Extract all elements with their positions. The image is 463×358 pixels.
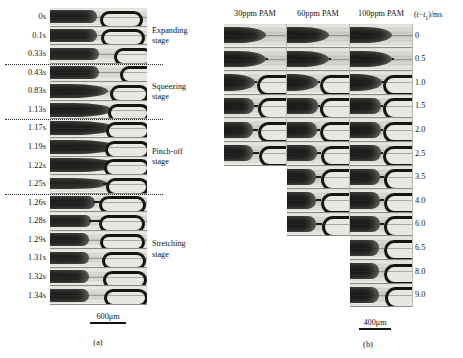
panel-b-frame (224, 142, 286, 166)
panel-b-droplet (321, 193, 349, 213)
panel-b-axis-label: (t−t1)/ms (414, 10, 442, 21)
panel-b-continuous-phase (287, 98, 318, 114)
panel-b-droplet (384, 264, 412, 284)
panel-a-stage-divider (5, 194, 163, 195)
panel-b-frame (287, 24, 349, 48)
panel-b-time-label: 9.0 (415, 291, 449, 299)
panel-a-droplet (103, 271, 147, 287)
panel-b-filament (380, 176, 383, 178)
panel-b-filament (266, 58, 268, 60)
panel-b-time-label: 1.0 (415, 79, 449, 87)
panel-b-time-label: 6.5 (415, 244, 449, 252)
panel-b-continuous-phase (350, 216, 380, 232)
panel-a-time-label: 1.17s (0, 124, 46, 132)
panel-a-frame (50, 45, 147, 64)
panel-b-filament (381, 152, 384, 154)
panel-a-continuous-phase (50, 121, 114, 135)
panel-b-frame (287, 95, 349, 119)
panel-b-time-label: 2.5 (415, 150, 449, 158)
panel-b-droplet (259, 146, 286, 166)
panel-b-droplet (320, 98, 349, 118)
panel-a-stage-label: Squeezingstage (152, 82, 218, 103)
panel-a-caption: (a) (72, 338, 124, 347)
panel-a-time-label: 1.13s (0, 106, 46, 114)
panel-b-droplet (384, 216, 412, 236)
panel-b-frame (350, 189, 412, 213)
panel-b-droplet (383, 122, 412, 142)
panel-b-filament (253, 129, 258, 131)
panel-b-frame (224, 48, 286, 72)
panel-b-droplet (321, 146, 349, 166)
panel-b-frame (287, 189, 349, 213)
panel-b-caption: (b) (342, 340, 394, 349)
panel-a-stage-divider (5, 64, 163, 65)
panel-b-frame (287, 48, 349, 72)
panel-b-filament (316, 176, 321, 178)
panel-b-filament (254, 105, 258, 107)
panel-b-droplet (258, 122, 286, 142)
panel-a-frame (50, 194, 147, 213)
panel-b: 30ppm PAM60ppm PAM100ppm PAM 00.51.01.52… (222, 0, 463, 358)
panel-b-continuous-phase (287, 192, 316, 208)
panel-a-continuous-phase (50, 103, 112, 117)
stage-label-line1: Squeezing (152, 82, 218, 92)
panel-b-droplet (257, 75, 286, 95)
panel-a-filament (103, 183, 108, 185)
panel-a-time-label: 1.31s (0, 254, 46, 262)
panel-a-filament (89, 220, 101, 222)
panel-a-droplet (106, 178, 147, 194)
panel-a-scalebar-label: 600μm (96, 312, 119, 321)
panel-a-droplet (101, 29, 145, 45)
panel-b-continuous-phase (287, 169, 316, 185)
panel-a-droplet (104, 159, 147, 175)
panel-b-continuous-phase (350, 287, 379, 303)
panel-b-droplet (321, 169, 349, 189)
panel-a-droplet (104, 289, 147, 305)
panel-b-time-label: 6.0 (415, 220, 449, 228)
panel-b-continuous-phase (350, 145, 381, 161)
panel-b-frame (224, 24, 286, 48)
panel-a-time-label: 1.32s (0, 273, 46, 281)
panel-a-stage-label: Stretchingstage (152, 239, 218, 260)
panel-b-filament (382, 81, 384, 83)
panel-b-filament (381, 105, 383, 107)
panel-a-frame (50, 157, 147, 176)
panel-b-time-label: 0.5 (415, 55, 449, 63)
panel-b-frame (350, 95, 412, 119)
panel-b-droplet (267, 51, 286, 66)
panel-b-frame (287, 142, 349, 166)
panel-a-frame (50, 286, 147, 305)
panel-a-time-label: 0s (0, 13, 46, 21)
panel-a-time-label: 1.22s (0, 162, 46, 170)
panel-a-droplet (100, 11, 143, 27)
panel-b-frame (350, 284, 412, 308)
panel-b-scalebar-line (359, 328, 391, 330)
panel-b-droplet (385, 287, 412, 307)
panel-b-droplet (384, 169, 412, 189)
stage-label-line1: Expanding (152, 26, 218, 36)
panel-a-droplet (120, 66, 147, 82)
panel-b-column (350, 24, 412, 307)
panel-b-continuous-phase (350, 192, 380, 208)
panel-a-droplet (114, 48, 147, 64)
panel-b-filament (255, 81, 257, 83)
panel-b-frame (350, 260, 412, 284)
panel-a-stage-label: Expandingstage (152, 26, 218, 47)
panel-b-frame (350, 213, 412, 237)
panel-b-continuous-phase (287, 145, 317, 161)
panel-b-frame (224, 95, 286, 119)
panel-b-frame (350, 236, 412, 260)
panel-b-continuous-phase (350, 27, 392, 43)
panel-b-continuous-phase (224, 98, 254, 114)
panel-b-droplet (267, 28, 286, 43)
panel-a-continuous-phase (50, 233, 89, 246)
panel-a-droplet (100, 234, 145, 250)
panel-a-frame (50, 138, 147, 157)
panel-b-column (287, 24, 349, 236)
panel-a-frame (50, 101, 147, 120)
panel-a-frame (50, 82, 147, 101)
panel-b-continuous-phase (287, 74, 318, 90)
panel-b-continuous-phase (224, 145, 253, 161)
panel-a-stage-label: Pinch-offstage (152, 147, 218, 168)
panel-a-droplet (106, 122, 147, 138)
